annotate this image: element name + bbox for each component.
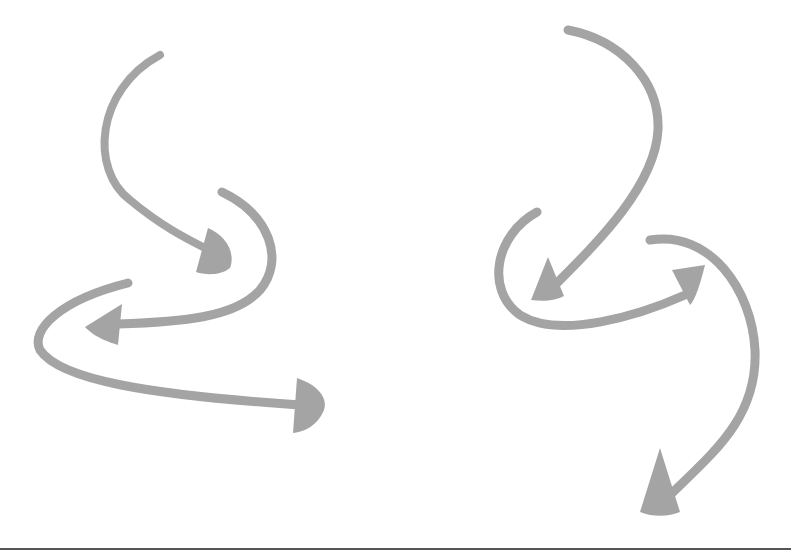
arrow-left-top bbox=[105, 55, 232, 274]
arrow-left-bottom bbox=[38, 283, 325, 433]
arrow-right-top bbox=[531, 30, 658, 301]
arrows-illustration bbox=[0, 0, 791, 552]
bottom-rule bbox=[0, 548, 791, 550]
arrow-right-middle bbox=[499, 212, 705, 325]
arrow-left-middle bbox=[85, 192, 272, 345]
